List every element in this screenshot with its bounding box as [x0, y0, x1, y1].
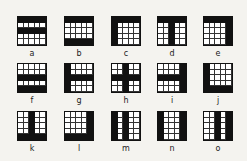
grid-cell: [134, 86, 140, 92]
pattern-grid: [203, 111, 233, 141]
pattern-grid: [157, 63, 187, 93]
pattern-grid: [64, 111, 94, 141]
grid-cell: [134, 39, 140, 45]
grid-cell: [87, 134, 93, 140]
pattern-label: h: [111, 96, 141, 105]
pattern-item-a: a: [17, 16, 47, 46]
pattern-label: f: [17, 96, 47, 105]
pattern-item-d: d: [157, 16, 187, 46]
grid-cell: [40, 39, 46, 45]
grid-cell: [134, 134, 140, 140]
pattern-item-n: n: [157, 111, 187, 141]
grid-cell: [87, 86, 93, 92]
pattern-item-c: c: [111, 16, 141, 46]
pattern-grid: [203, 16, 233, 46]
pattern-item-l: l: [64, 111, 94, 141]
pattern-item-k: k: [17, 111, 47, 141]
pattern-grid: [157, 16, 187, 46]
pattern-item-m: m: [111, 111, 141, 141]
pattern-label: l: [64, 144, 94, 153]
pattern-grid: [64, 16, 94, 46]
pattern-item-h: h: [111, 63, 141, 93]
pattern-item-g: g: [64, 63, 94, 93]
pattern-grid: [157, 111, 187, 141]
grid-cell: [87, 39, 93, 45]
pattern-item-b: b: [64, 16, 94, 46]
pattern-grid: [203, 63, 233, 93]
pattern-label: e: [203, 49, 233, 58]
pattern-grid: [111, 63, 141, 93]
pattern-item-j: j: [203, 63, 233, 93]
grid-cell: [180, 39, 186, 45]
grid-cell: [226, 86, 232, 92]
pattern-grid: [17, 16, 47, 46]
pattern-label: d: [157, 49, 187, 58]
pattern-grid: [17, 111, 47, 141]
pattern-label: o: [203, 144, 233, 153]
pattern-label: g: [64, 96, 94, 105]
pattern-item-e: e: [203, 16, 233, 46]
pattern-label: m: [111, 144, 141, 153]
grid-cell: [226, 134, 232, 140]
grid-cell: [180, 86, 186, 92]
pattern-item-o: o: [203, 111, 233, 141]
pattern-label: k: [17, 144, 47, 153]
pattern-grid: [111, 111, 141, 141]
pattern-label: i: [157, 96, 187, 105]
pattern-label: j: [203, 96, 233, 105]
pattern-grid-figure: abcdefghijklmno: [0, 0, 247, 161]
pattern-grid: [111, 16, 141, 46]
pattern-item-f: f: [17, 63, 47, 93]
pattern-grid: [17, 63, 47, 93]
grid-cell: [226, 39, 232, 45]
pattern-grid: [64, 63, 94, 93]
pattern-item-i: i: [157, 63, 187, 93]
pattern-label: b: [64, 49, 94, 58]
pattern-label: a: [17, 49, 47, 58]
pattern-label: n: [157, 144, 187, 153]
grid-cell: [40, 86, 46, 92]
grid-cell: [40, 134, 46, 140]
pattern-label: c: [111, 49, 141, 58]
grid-cell: [180, 134, 186, 140]
